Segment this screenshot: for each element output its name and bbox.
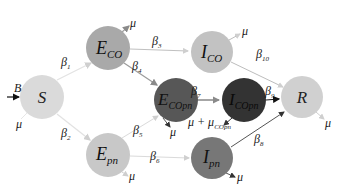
svg-text:β3: β3 [151, 34, 162, 50]
label-beta4: β [131, 59, 138, 73]
svg-text:μ + μCOpn: μ + μCOpn [187, 115, 231, 131]
svg-text:β4: β4 [131, 59, 142, 75]
label-beta7: β [190, 84, 197, 98]
label-mu-ecopn: μ [169, 125, 176, 139]
label-mu-icopn-sub: COpn [214, 123, 231, 131]
node-r: R [281, 76, 323, 118]
node-eco: ECO [86, 26, 130, 70]
node-eco-sub: CO [107, 48, 122, 60]
node-epn-main: E [95, 144, 107, 164]
label-mu-eco: μ [129, 16, 136, 30]
node-epn-sub: pn [106, 154, 119, 166]
label-beta6: β [149, 149, 156, 163]
svg-text:β9: β9 [264, 84, 275, 100]
svg-text:β6: β6 [149, 149, 160, 165]
node-ico-sub: CO [207, 52, 222, 64]
svg-text:β5: β5 [132, 123, 143, 139]
edge-epn-ipn [130, 156, 189, 158]
node-ipn: Ipn [191, 137, 233, 179]
outflow-eco [122, 26, 129, 32]
label-mu-ipn: μ [236, 170, 243, 184]
label-mu-s: μ [15, 117, 22, 131]
node-ipn-sub: pn [208, 157, 221, 169]
outflow-epn [122, 172, 128, 176]
node-ico: ICO [191, 31, 233, 73]
node-s-label: S [38, 88, 47, 107]
node-icopn-sub: COpn [235, 100, 259, 111]
outflow-ico [229, 34, 240, 40]
node-ecopn-sub: COpn [168, 100, 192, 111]
label-beta5: β [132, 123, 139, 137]
outflow-s [21, 112, 28, 119]
label-mu-r: μ [324, 116, 331, 130]
label-beta9: β [264, 84, 271, 98]
node-epn: Epn [86, 133, 130, 177]
svg-text:β10: β10 [255, 47, 269, 63]
outflow-r [316, 112, 324, 119]
label-mu-icopn: μ + μ [187, 115, 214, 129]
label-beta3: β [151, 34, 158, 48]
svg-text:β2: β2 [60, 126, 71, 142]
label-inflow-b: B [14, 81, 22, 95]
node-ecopn-main: E [157, 90, 169, 109]
label-mu-ico: μ [241, 24, 248, 38]
label-mu-epn: μ [128, 169, 135, 183]
label-beta1: β [60, 55, 67, 69]
svg-text:β1: β1 [60, 55, 70, 71]
label-beta8: β [253, 132, 260, 146]
svg-text:β7: β7 [190, 84, 201, 100]
node-icopn: ICOpn [222, 78, 266, 122]
node-s: S [20, 75, 64, 119]
outflow-ipn [226, 173, 235, 177]
node-eco-main: E [95, 38, 107, 58]
svg-text:β8: β8 [253, 132, 264, 148]
node-r-label: R [296, 88, 308, 107]
label-beta2: β [60, 126, 67, 140]
compartment-diagram: S ECO ICO ECOpn ICOpn R Epn Ipn β1 β2 β3… [0, 0, 348, 188]
label-beta10: β [255, 47, 262, 61]
